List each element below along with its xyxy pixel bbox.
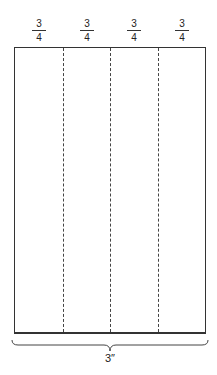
fraction-label-3: 3 4 (122, 18, 146, 43)
numerator: 3 (32, 18, 46, 31)
denominator: 4 (170, 31, 194, 43)
fold-line-2 (110, 48, 111, 332)
fraction-label-2: 3 4 (75, 18, 99, 43)
fraction-label-4: 3 4 (170, 18, 194, 43)
fold-line-3 (158, 48, 159, 332)
denominator: 4 (27, 31, 51, 43)
fraction-label-1: 3 4 (27, 18, 51, 43)
numerator: 3 (80, 18, 94, 31)
total-width-label: 3″ (95, 352, 125, 364)
numerator: 3 (175, 18, 189, 31)
fold-line-1 (63, 48, 64, 332)
numerator: 3 (127, 18, 141, 31)
denominator: 4 (122, 31, 146, 43)
denominator: 4 (75, 31, 99, 43)
